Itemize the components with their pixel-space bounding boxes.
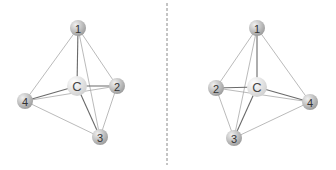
atom-label: 2	[213, 83, 219, 95]
atom-label: 2	[114, 81, 120, 93]
atom-label: 3	[231, 133, 237, 145]
atom-3: 3	[226, 130, 242, 146]
atom-3: 3	[92, 129, 108, 145]
atom-label: 3	[97, 132, 103, 144]
atom-2: 2	[109, 78, 125, 94]
atom-4: 4	[302, 94, 318, 110]
edge-2-3	[100, 86, 117, 137]
atom-C: C	[247, 77, 267, 97]
atom-1: 1	[70, 20, 86, 36]
atom-C: C	[67, 76, 87, 96]
atom-4: 4	[17, 93, 33, 109]
atom-label: 1	[75, 23, 81, 35]
edge-3-4	[234, 102, 310, 138]
molecule-right: 1243C	[208, 20, 318, 146]
atom-1: 1	[249, 20, 265, 36]
atom-label: 1	[254, 23, 260, 35]
atom-2: 2	[208, 80, 224, 96]
edge-4-3	[25, 101, 100, 137]
atom-label: 4	[307, 97, 313, 109]
atom-label: C	[252, 80, 261, 95]
molecule-left: 1243C	[17, 20, 125, 145]
atom-label: 4	[22, 96, 28, 108]
atom-label: C	[72, 79, 81, 94]
enantiomer-diagram: 1243C 1243C	[0, 0, 336, 170]
